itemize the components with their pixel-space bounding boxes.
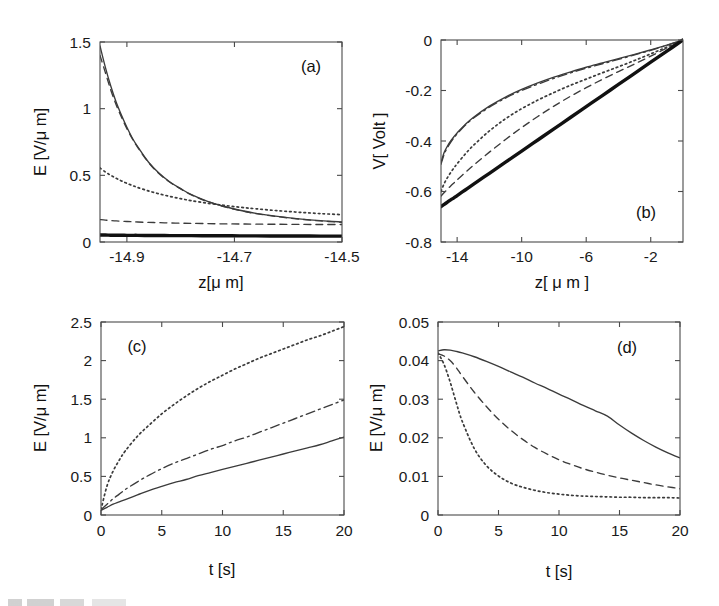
curve-d-curve-3-dotted (438, 353, 680, 498)
panel-b-xticklabel: -2 (644, 248, 658, 265)
curve-d-curve-1-solid (438, 350, 680, 458)
panel-c-xticklabels: 05101520 (97, 522, 353, 539)
panel-c-xticklabel: 20 (335, 522, 353, 539)
panel-c-yticklabel: 1 (83, 429, 92, 446)
panel-a-yticklabel: 1.5 (69, 34, 91, 51)
curve-b-curve-1-solid (441, 40, 683, 162)
curve-a-curve-2-dashed (100, 55, 342, 222)
panel-d-ticks (438, 322, 680, 515)
panel-c-svg: 05101520 00.511.522.5 t [s] E [V/μ m] (c… (0, 300, 360, 606)
panel-a-svg: -14.9-14.7-14.5 00.511.5 z[μ m] E [V/μ m… (0, 0, 360, 300)
panel-c-ylabel: E [V/μ m] (31, 384, 49, 452)
panel-d-yticklabel: 0 (420, 507, 429, 524)
panel-c-yticklabel: 2 (83, 352, 92, 369)
panel-b-yticklabel: -0.4 (405, 133, 432, 150)
panel-d-yticklabels: 00.010.020.030.040.05 (399, 314, 430, 524)
panel-d: 05101520 00.010.020.030.040.05 t [s] E [… (360, 300, 719, 606)
panel-c: 05101520 00.511.522.5 t [s] E [V/μ m] (c… (0, 300, 360, 606)
panel-c-yticklabel: 2.5 (70, 314, 92, 331)
curve-c-curve-3-solid (101, 437, 344, 510)
panel-a-xticklabel: -14.5 (324, 248, 359, 265)
panel-c-yticklabel: 0 (83, 507, 92, 524)
panel-b-yticklabels: -0.8-0.6-0.4-0.20 (405, 32, 432, 251)
panel-d-yticklabel: 0.01 (399, 468, 429, 485)
panel-c-xticklabel: 15 (275, 522, 292, 539)
panel-b-xticklabel: -10 (510, 248, 533, 265)
panel-c-yticklabels: 00.511.522.5 (70, 314, 92, 524)
scan-edge-artifact (8, 599, 158, 606)
panel-d-xticklabel: 0 (434, 522, 443, 539)
panel-d-axes-box (438, 322, 680, 515)
panel-d-xticklabel: 5 (494, 522, 503, 539)
figure-root: -14.9-14.7-14.5 00.511.5 z[μ m] E [V/μ m… (0, 0, 719, 606)
panel-b-xticklabels: -14-10-6-2 (446, 248, 658, 265)
panel-d-ylabel: E [V/μ m] (367, 384, 385, 452)
panel-d-curves (438, 350, 680, 498)
panel-b-yticklabel: -0.8 (405, 234, 432, 251)
panel-a-xticklabel: -14.7 (217, 248, 252, 265)
curve-b-curve-5-thick-solid (441, 40, 683, 207)
panel-c-xticklabel: 5 (157, 522, 166, 539)
panel-d-yticklabel: 0.04 (399, 352, 430, 369)
panel-a-xticklabel: -14.9 (109, 248, 144, 265)
panel-d-yticklabel: 0.02 (399, 429, 429, 446)
panel-a-xlabel: z[μ m] (198, 273, 243, 291)
panel-a-yticklabel: 0 (82, 234, 91, 251)
curve-c-curve-2-dashdot (101, 400, 344, 510)
panel-a-ylabel: E [V/μ m] (31, 108, 49, 176)
panel-b-yticklabel: -0.2 (405, 82, 432, 99)
panel-c-xticklabel: 10 (214, 522, 232, 539)
panel-b: -14-10-6-2 -0.8-0.6-0.4-0.20 z[ μ m ] V[… (360, 0, 719, 300)
panel-c-xticklabel: 0 (97, 522, 106, 539)
panel-b-ylabel: V[ Volt ] (370, 113, 388, 170)
curve-a-curve-3-dotted (100, 168, 342, 215)
panel-b-svg: -14-10-6-2 -0.8-0.6-0.4-0.20 z[ μ m ] V[… (360, 0, 719, 300)
panel-d-xticklabels: 05101520 (434, 522, 689, 539)
panel-b-xticklabel: -14 (446, 248, 469, 265)
panel-d-xticklabel: 10 (550, 522, 568, 539)
panel-c-xlabel: t [s] (209, 560, 236, 578)
panel-c-tag: (c) (127, 337, 146, 355)
panel-a: -14.9-14.7-14.5 00.511.5 z[μ m] E [V/μ m… (0, 0, 360, 300)
panel-d-svg: 05101520 00.010.020.030.040.05 t [s] E [… (360, 300, 719, 606)
panel-d-yticklabel: 0.05 (399, 314, 429, 331)
panel-a-tag: (a) (301, 57, 321, 75)
panel-b-yticklabel: 0 (423, 32, 432, 49)
panel-d-xticklabel: 20 (671, 522, 689, 539)
panel-c-yticklabel: 0.5 (70, 468, 92, 485)
panel-a-yticklabel: 0.5 (69, 167, 91, 184)
curve-a-curve-5-thick-solid (100, 235, 342, 236)
panel-b-xlabel: z[ μ m ] (535, 273, 589, 291)
panel-b-yticklabel: -0.6 (405, 183, 432, 200)
panel-d-xticklabel: 15 (611, 522, 628, 539)
panel-b-xticklabel: -6 (579, 248, 593, 265)
panel-d-tag: (d) (617, 338, 637, 356)
curve-b-curve-2-dashdot (441, 40, 683, 164)
panel-b-tag: (b) (636, 203, 656, 221)
panel-d-yticklabel: 0.03 (399, 391, 429, 408)
curve-d-curve-2-dashed (438, 354, 680, 489)
panel-b-curves (441, 40, 683, 207)
panel-c-yticklabel: 1.5 (70, 391, 92, 408)
panel-a-yticklabel: 1 (82, 100, 91, 117)
panel-a-yticklabels: 00.511.5 (69, 34, 91, 251)
panel-d-xlabel: t [s] (546, 562, 573, 580)
panel-a-xticklabels: -14.9-14.7-14.5 (109, 248, 359, 265)
